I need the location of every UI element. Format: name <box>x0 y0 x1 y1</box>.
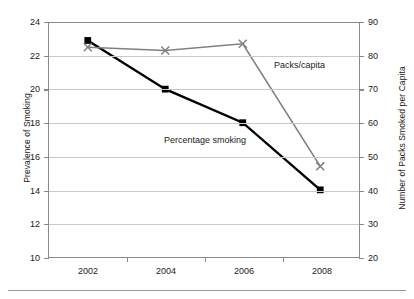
y-axis-tick-right <box>359 56 364 57</box>
annotation-packs-capita: Packs/capita <box>274 60 325 70</box>
y-axis-tick-left <box>44 157 49 158</box>
y-axis-label-right: 30 <box>368 220 378 229</box>
y-axis-label-right: 90 <box>368 18 378 27</box>
y-axis-tick-right <box>359 123 364 124</box>
y-axis-tick-left <box>44 56 49 57</box>
y-axis-tick-right <box>359 258 364 259</box>
y-axis-tick-left <box>44 191 49 192</box>
gridline <box>49 123 359 124</box>
y-axis-label-right: 70 <box>368 85 378 94</box>
annotation-percentage-smoking: Percentage smoking <box>164 135 246 145</box>
y-axis-tick-right <box>359 22 364 23</box>
x-axis-label: 2008 <box>312 266 332 276</box>
right-axis-title: Number of Packs Smoked per Capita <box>397 53 407 223</box>
x-axis-tick <box>205 257 206 262</box>
gridline <box>49 89 359 90</box>
y-axis-tick-right <box>359 157 364 158</box>
y-axis-tick-left <box>44 89 49 90</box>
x-axis-tick <box>127 257 128 262</box>
y-axis-label-left: 10 <box>30 254 40 263</box>
gridline <box>49 224 359 225</box>
y-axis-label-left: 16 <box>30 152 40 161</box>
x-axis-tick <box>283 257 284 262</box>
gridline <box>49 157 359 158</box>
y-axis-tick-left <box>44 123 49 124</box>
gridline <box>49 191 359 192</box>
data-point-marker-square <box>84 37 91 44</box>
y-axis-tick-right <box>359 224 364 225</box>
y-axis-label-right: 20 <box>368 254 378 263</box>
y-axis-tick-left <box>44 258 49 259</box>
y-axis-label-left: 12 <box>30 220 40 229</box>
y-axis-tick-left <box>44 22 49 23</box>
y-axis-tick-right <box>359 191 364 192</box>
gridline <box>49 56 359 57</box>
footer-divider <box>8 290 406 291</box>
x-axis-label: 2002 <box>78 266 98 276</box>
y-axis-label-left: 18 <box>30 119 40 128</box>
y-axis-label-right: 50 <box>368 152 378 161</box>
chart-figure: Prevalence of Smoking Number of Packs Sm… <box>0 0 414 299</box>
y-axis-label-left: 20 <box>30 85 40 94</box>
y-axis-label-right: 60 <box>368 119 378 128</box>
y-axis-tick-right <box>359 89 364 90</box>
y-axis-label-left: 24 <box>30 18 40 27</box>
y-axis-label-right: 40 <box>368 186 378 195</box>
y-axis-label-left: 14 <box>30 186 40 195</box>
x-axis-label: 2006 <box>234 266 254 276</box>
y-axis-label-left: 22 <box>30 51 40 60</box>
y-axis-tick-left <box>44 224 49 225</box>
data-point-marker-x <box>316 162 324 170</box>
x-axis-label: 2004 <box>156 266 176 276</box>
gridline <box>49 22 359 23</box>
y-axis-label-right: 80 <box>368 51 378 60</box>
